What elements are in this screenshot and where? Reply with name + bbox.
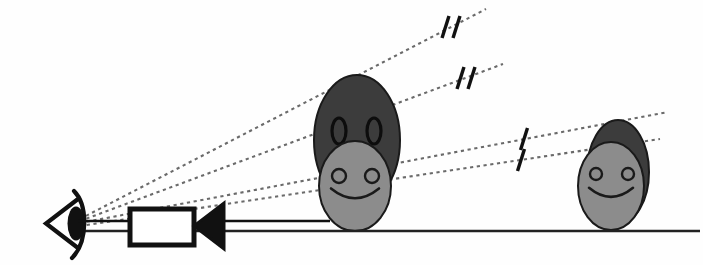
camera-body — [130, 209, 194, 245]
far-figure-front-face — [578, 142, 644, 230]
diagram-canvas — [0, 0, 703, 265]
perspective-diagram — [0, 0, 703, 265]
near-figure — [314, 75, 400, 231]
eye-pupil — [68, 207, 85, 241]
near-figure-front-face — [319, 141, 391, 231]
